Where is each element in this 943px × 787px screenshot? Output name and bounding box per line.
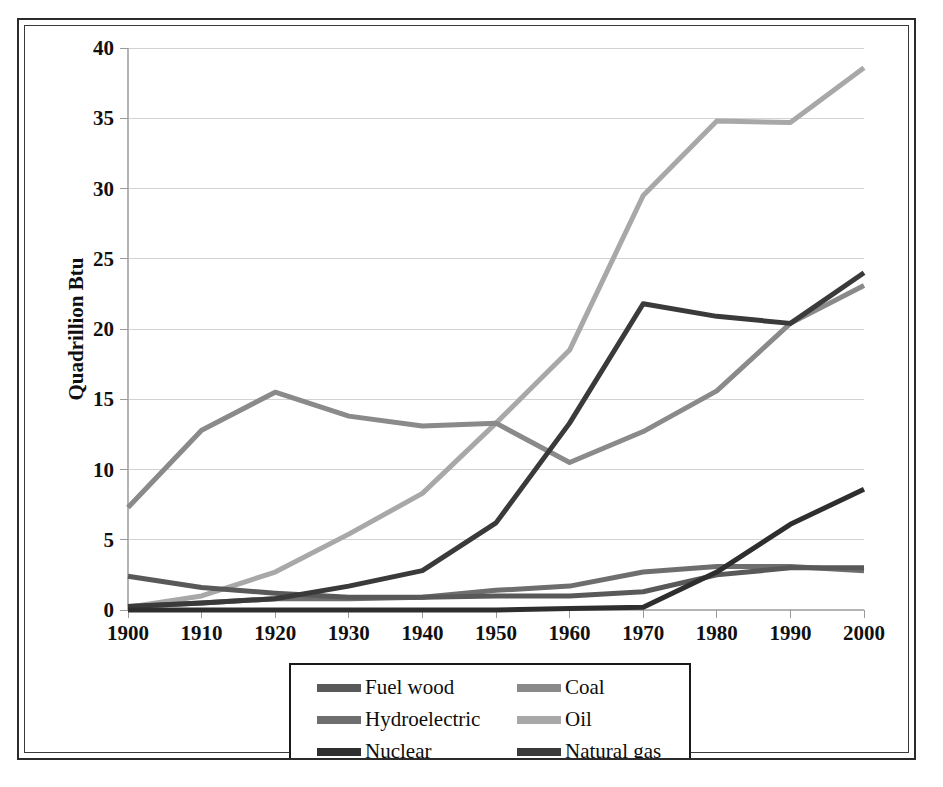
x-tick-label: 1910 bbox=[181, 621, 223, 645]
x-tick-label: 1940 bbox=[401, 621, 443, 645]
y-tick-label: 10 bbox=[93, 458, 114, 482]
x-tick-label: 2000 bbox=[843, 621, 885, 645]
line-chart: 0510152025303540 19001910192019301940195… bbox=[25, 26, 914, 758]
figure-outer-frame: 0510152025303540 19001910192019301940195… bbox=[17, 18, 916, 760]
y-axis-ticks: 0510152025303540 bbox=[93, 36, 128, 622]
y-tick-label: 35 bbox=[93, 106, 114, 130]
legend-label-nuclear: Nuclear bbox=[365, 739, 431, 758]
legend-label-oil: Oil bbox=[565, 707, 592, 731]
legend-label-hydroelectric: Hydroelectric bbox=[365, 707, 480, 731]
x-tick-label: 1920 bbox=[254, 621, 296, 645]
page-root: 0510152025303540 19001910192019301940195… bbox=[0, 0, 943, 787]
y-tick-label: 0 bbox=[104, 598, 115, 622]
x-axis-ticks: 1900191019201930194019501960197019801990… bbox=[107, 610, 885, 645]
y-tick-label: 40 bbox=[93, 36, 114, 60]
y-tick-label: 25 bbox=[93, 247, 114, 271]
y-tick-label: 30 bbox=[93, 177, 114, 201]
chart-container: 0510152025303540 19001910192019301940195… bbox=[25, 26, 914, 758]
x-tick-label: 1990 bbox=[769, 621, 811, 645]
y-tick-label: 15 bbox=[93, 387, 114, 411]
x-tick-label: 1930 bbox=[328, 621, 370, 645]
x-tick-label: 1980 bbox=[696, 621, 738, 645]
figure-inner-frame: 0510152025303540 19001910192019301940195… bbox=[24, 25, 909, 753]
legend-label-coal: Coal bbox=[565, 675, 605, 699]
chart-legend: Fuel woodCoalHydroelectricOilNuclearNatu… bbox=[290, 664, 690, 758]
x-tick-label: 1960 bbox=[549, 621, 591, 645]
x-tick-label: 1950 bbox=[475, 621, 517, 645]
y-tick-label: 5 bbox=[104, 528, 115, 552]
legend-label-fuel-wood: Fuel wood bbox=[365, 675, 455, 699]
x-tick-label: 1970 bbox=[622, 621, 664, 645]
y-tick-label: 20 bbox=[93, 317, 114, 341]
y-axis-label: Quadrillion Btu bbox=[64, 257, 88, 400]
legend-label-natural-gas: Natural gas bbox=[565, 739, 661, 758]
x-tick-label: 1900 bbox=[107, 621, 149, 645]
